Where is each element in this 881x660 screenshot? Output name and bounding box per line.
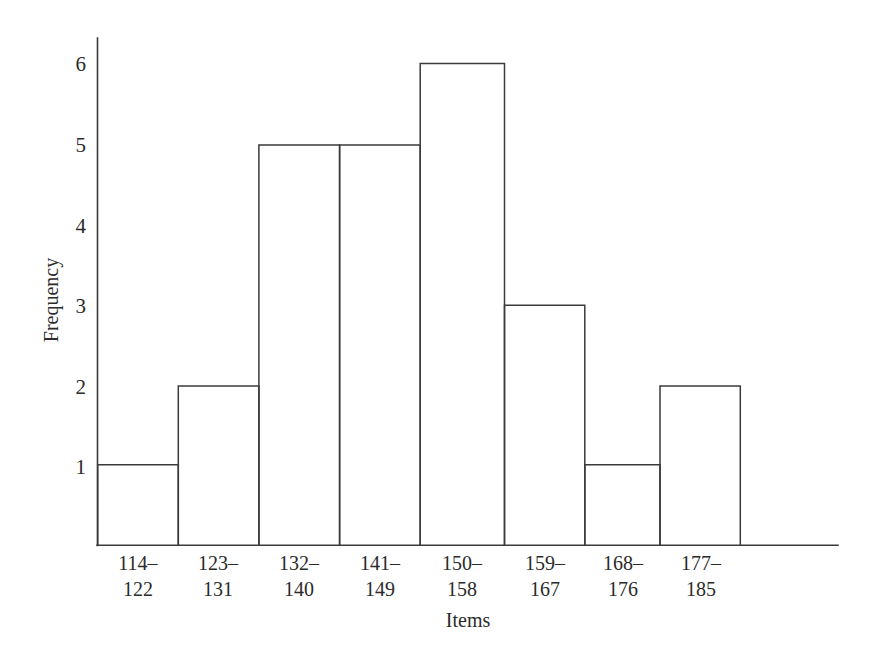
histogram-bar-8 <box>660 386 740 545</box>
histogram-bar-2 <box>178 386 259 545</box>
histogram-svg: 6 5 4 3 2 1 114– 122 123– 131 132– 140 1… <box>0 0 881 660</box>
x-tick-label-2-line2: 131 <box>203 578 233 600</box>
histogram-bar-6 <box>505 305 585 545</box>
x-axis-title: Items <box>446 609 491 631</box>
x-tick-label-8-line2: 185 <box>686 578 716 600</box>
histogram-bar-1 <box>98 465 179 545</box>
histogram-bar-4 <box>340 145 421 545</box>
histogram-bar-5 <box>420 64 504 546</box>
x-tick-label-1-line1: 114– <box>118 552 158 574</box>
y-axis-title: Frequency <box>40 258 63 342</box>
y-tick-label-2: 2 <box>76 375 87 399</box>
x-tick-label-2-line1: 123– <box>198 552 239 574</box>
x-tick-label-4-line2: 149 <box>365 578 395 600</box>
x-tick-label-5-line1: 150– <box>442 552 483 574</box>
histogram-bar-3 <box>259 145 340 545</box>
x-tick-label-1-line2: 122 <box>123 578 153 600</box>
y-tick-label-3: 3 <box>76 294 87 318</box>
x-tick-label-6-line2: 167 <box>530 578 560 600</box>
x-tick-label-5-line2: 158 <box>447 578 477 600</box>
y-tick-label-4: 4 <box>76 214 87 238</box>
x-tick-label-7-line1: 168– <box>603 552 644 574</box>
x-tick-label-7-line2: 176 <box>608 578 638 600</box>
histogram-figure: 6 5 4 3 2 1 114– 122 123– 131 132– 140 1… <box>0 0 881 660</box>
x-tick-label-3-line1: 132– <box>279 552 320 574</box>
y-tick-label-5: 5 <box>76 133 87 157</box>
x-tick-label-6-line1: 159– <box>525 552 566 574</box>
x-tick-label-4-line1: 141– <box>360 552 401 574</box>
x-tick-label-3-line2: 140 <box>284 578 314 600</box>
histogram-bar-7 <box>585 465 660 545</box>
y-tick-label-6: 6 <box>76 52 87 76</box>
x-tick-label-8-line1: 177– <box>681 552 722 574</box>
y-tick-label-1: 1 <box>76 455 87 479</box>
